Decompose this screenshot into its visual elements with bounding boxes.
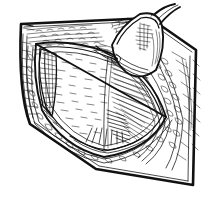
engraving-canvas [0,0,212,207]
junction-node-center [114,57,118,61]
illustration-figure [0,0,212,207]
